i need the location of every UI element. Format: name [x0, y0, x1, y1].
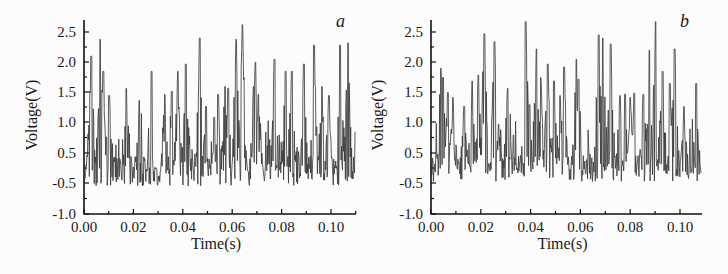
voltage-trace: [432, 22, 701, 182]
x-tick-label: 0.02: [468, 219, 494, 235]
y-tick-label: -0.5: [52, 175, 76, 191]
y-tick-label: 2.0: [57, 54, 76, 70]
x-tick-label: 0.00: [71, 219, 97, 235]
y-tick-label: 1.5: [57, 84, 76, 100]
y-tick-label: 1.0: [57, 114, 76, 130]
x-axis-title: Time(s): [537, 235, 587, 253]
panel-a: 2.52.01.51.00.5-0.5-1.00.000.020.040.060…: [23, 11, 356, 253]
x-tick-label: 0.06: [567, 219, 594, 235]
x-tick-label: 0.06: [219, 219, 246, 235]
x-tick-label: 0.04: [517, 219, 544, 235]
panel-b: 2.52.01.51.00.5-0.5-1.00.000.020.040.060…: [369, 11, 702, 253]
axes: [84, 20, 356, 214]
y-tick-label: 0.5: [57, 145, 76, 161]
panel-label: a: [336, 11, 345, 31]
y-tick-label: 0.5: [404, 145, 423, 161]
x-axis-title: Time(s): [191, 235, 241, 253]
x-tick-label: 0.08: [617, 219, 643, 235]
y-axis-title: Voltage(V): [369, 80, 387, 151]
y-tick-label: 2.5: [57, 24, 76, 40]
y-tick-label: 2.0: [404, 54, 423, 70]
y-tick-label: -0.5: [399, 175, 423, 191]
y-tick-label: 1.5: [404, 84, 423, 100]
x-tick-label: 0.10: [318, 219, 344, 235]
x-tick-label: 0.10: [667, 219, 693, 235]
y-tick-label: 2.5: [404, 24, 423, 40]
x-tick-label: 0.02: [120, 219, 146, 235]
y-tick-label: 1.0: [404, 114, 423, 130]
x-tick-label: 0.08: [268, 219, 294, 235]
figure: 2.52.01.51.00.5-0.5-1.00.000.020.040.060…: [0, 0, 728, 274]
panel-label: b: [680, 11, 689, 31]
voltage-trace: [85, 25, 355, 186]
x-tick-label: 0.00: [418, 219, 444, 235]
x-tick-label: 0.04: [170, 219, 197, 235]
y-axis-title: Voltage(V): [23, 80, 41, 151]
